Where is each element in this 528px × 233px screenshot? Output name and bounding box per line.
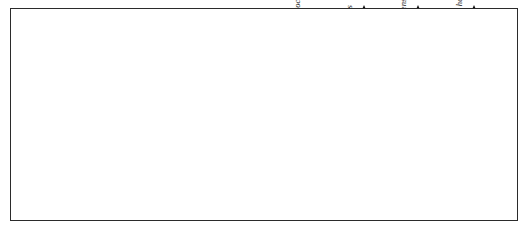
range-chart-figure: 艾菲尔期 Eifelian ensensis带kockelianus带austr… [0,0,528,233]
figure-border [10,8,518,221]
